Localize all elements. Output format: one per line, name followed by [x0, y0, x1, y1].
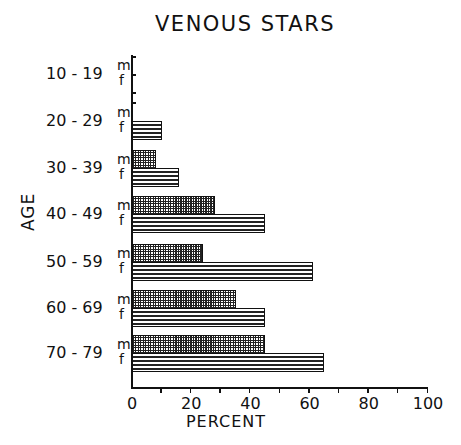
x-tick-label: 60: [299, 394, 319, 413]
bar-m: [132, 244, 203, 263]
y-tick: [133, 56, 136, 58]
x-tick: [190, 388, 192, 393]
x-tick: [427, 388, 429, 393]
sex-label-m: m: [117, 246, 131, 260]
age-group-label: 30 - 39: [46, 158, 103, 177]
bar-f: [132, 121, 162, 140]
x-tick-label: 40: [240, 394, 260, 413]
y-axis-label: AGE: [18, 193, 38, 231]
bar-f: [132, 262, 313, 281]
age-group-label: 70 - 79: [46, 343, 103, 362]
bar-f: [132, 308, 265, 327]
bar-f: [132, 214, 265, 233]
age-group-label: 20 - 29: [46, 111, 103, 130]
x-tick-label: 80: [359, 394, 379, 413]
sex-label-m: m: [117, 105, 131, 119]
x-axis-label: PERCENT: [186, 412, 266, 431]
sex-label-f: f: [119, 167, 124, 181]
y-tick: [133, 92, 136, 94]
y-tick: [133, 102, 136, 104]
bar-m: [132, 290, 236, 309]
x-tick: [397, 388, 399, 393]
age-group-label: 10 - 19: [46, 64, 103, 83]
sex-label-f: f: [119, 213, 124, 227]
age-group-label: 40 - 49: [46, 204, 103, 223]
sex-label-m: m: [117, 58, 131, 72]
sex-label-f: f: [119, 73, 124, 87]
sex-label-m: m: [117, 198, 131, 212]
bar-f: [132, 168, 179, 187]
sex-label-f: f: [119, 261, 124, 275]
bar-m: [132, 150, 156, 169]
bar-m: [132, 335, 265, 354]
sex-label-f: f: [119, 352, 124, 366]
sex-label-m: m: [117, 292, 131, 306]
x-tick: [219, 388, 221, 393]
sex-label-m: m: [117, 152, 131, 166]
sex-label-f: f: [119, 120, 124, 134]
sex-label-f: f: [119, 307, 124, 321]
x-tick: [160, 388, 162, 393]
x-tick: [367, 388, 369, 393]
bar-f: [132, 353, 324, 372]
chart-title-text: VENOUS STARS: [155, 12, 335, 36]
x-tick: [338, 388, 340, 393]
bar-m: [132, 196, 215, 215]
sex-label-m: m: [117, 337, 131, 351]
age-group-label: 60 - 69: [46, 298, 103, 317]
x-tick-label: 100: [413, 394, 444, 413]
x-tick: [249, 388, 251, 393]
y-tick: [133, 74, 136, 76]
x-tick: [308, 388, 310, 393]
x-tick: [279, 388, 281, 393]
age-group-label: 50 - 59: [46, 252, 103, 271]
x-tick-label: 20: [181, 394, 201, 413]
x-tick-label: 0: [127, 394, 137, 413]
